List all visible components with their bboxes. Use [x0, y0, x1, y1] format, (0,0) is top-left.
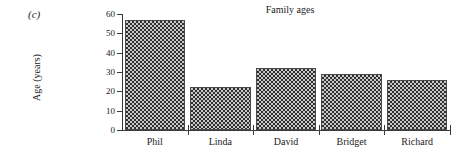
y-axis-tick-label-text: 10 — [87, 107, 115, 116]
bar — [321, 74, 381, 130]
x-axis-tick-label: Richard — [384, 136, 450, 148]
bar — [256, 68, 316, 130]
y-axis-tick-label: 60 — [85, 10, 115, 19]
y-axis-tick-label: 20 — [85, 87, 115, 96]
plot-area: Age (years) 0102030405060 PhilLindaDavid… — [0, 0, 465, 160]
y-axis-tick — [117, 91, 123, 92]
x-axis-line — [122, 130, 450, 131]
y-axis-tick — [117, 72, 123, 73]
y-axis-tick — [117, 130, 123, 131]
y-axis-tick — [117, 14, 123, 15]
y-axis-tick — [117, 53, 123, 54]
x-axis-tick-label: David — [253, 136, 319, 148]
x-axis-tick — [384, 125, 385, 135]
y-axis-tick-label: 10 — [85, 107, 115, 116]
x-axis-tick-label: Phil — [122, 136, 188, 148]
y-axis-tick-label-text: 40 — [87, 49, 115, 58]
y-axis-tick-label-text: 30 — [87, 68, 115, 77]
y-axis-tick-label-text: 20 — [87, 87, 115, 96]
bar — [387, 80, 447, 130]
x-axis-tick — [319, 125, 320, 135]
x-axis-tick — [188, 125, 189, 135]
y-axis-tick — [117, 33, 123, 34]
y-axis-tick-label: 30 — [85, 68, 115, 77]
bar — [125, 20, 185, 130]
figure-panel: (c) Family ages Age (years) 010203040506… — [0, 0, 465, 160]
bar — [190, 87, 250, 130]
y-axis-tick-label: 40 — [85, 49, 115, 58]
y-axis-tick-label: 0 — [85, 126, 115, 135]
y-axis-tick — [117, 111, 123, 112]
y-axis-tick-label-text: 60 — [87, 10, 115, 19]
y-axis-tick-label-text: 50 — [87, 29, 115, 38]
x-axis-tick-label: Bridget — [319, 136, 385, 148]
x-axis-tick — [450, 125, 451, 135]
y-axis-title: Age (years) — [31, 18, 42, 138]
x-axis-tick — [253, 125, 254, 135]
y-axis-tick-label: 50 — [85, 29, 115, 38]
x-axis-tick-label: Linda — [188, 136, 254, 148]
y-axis-tick-label-text: 0 — [87, 126, 115, 135]
